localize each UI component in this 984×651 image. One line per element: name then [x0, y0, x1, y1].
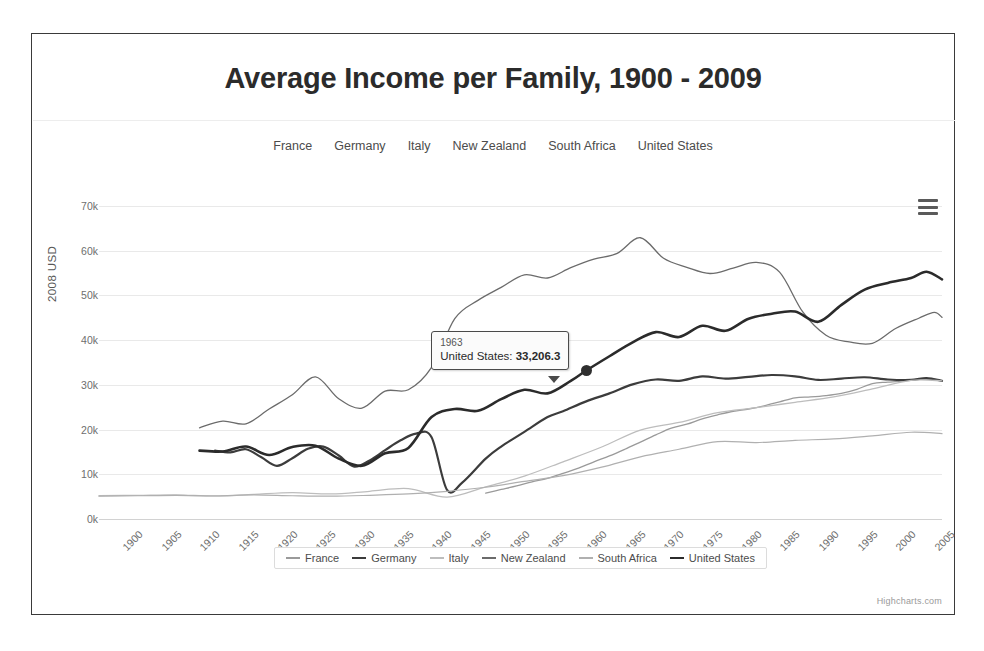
hamburger-bar-1	[918, 199, 938, 202]
x-tick-1910: 1910	[197, 528, 222, 553]
x-tick-2005: 2005	[932, 528, 957, 553]
y-tick-70k: 70k	[64, 200, 98, 212]
legend-swatch-icon	[579, 557, 593, 559]
legend-label: United States	[689, 552, 755, 564]
y-tick-0k: 0k	[64, 513, 98, 525]
hamburger-menu-icon[interactable]	[918, 199, 938, 215]
gridline-60k	[99, 251, 942, 252]
legend-swatch-icon	[430, 557, 444, 559]
y-tick-40k: 40k	[64, 334, 98, 346]
legend-label: Germany	[371, 552, 416, 564]
legend-item-south-africa[interactable]: South Africa	[579, 552, 657, 564]
legend-swatch-icon	[670, 557, 684, 559]
legend-item-germany[interactable]: Germany	[352, 552, 416, 564]
y-tick-20k: 20k	[64, 424, 98, 436]
y-tick-10k: 10k	[64, 468, 98, 480]
y-axis-tick-labels: 0k10k20k30k40k50k60k70k	[64, 34, 98, 616]
tooltip-series-label: United States:	[440, 350, 512, 362]
legend-item-france[interactable]: France	[286, 552, 339, 564]
tooltip-pointer	[548, 376, 560, 383]
bottom-legend[interactable]: FranceGermanyItalyNew ZealandSouth Afric…	[274, 547, 767, 569]
hamburger-bar-3	[918, 212, 938, 215]
legend-swatch-icon	[482, 557, 496, 559]
legend-label: Italy	[449, 552, 469, 564]
legend-label: South Africa	[598, 552, 657, 564]
x-tick-1905: 1905	[158, 528, 183, 553]
x-tick-1990: 1990	[816, 528, 841, 553]
gridline-70k	[99, 206, 942, 207]
gridline-10k	[99, 474, 942, 475]
legend-item-italy[interactable]: Italy	[430, 552, 469, 564]
legend-label: France	[305, 552, 339, 564]
tooltip-header: 1963	[440, 336, 560, 349]
x-tick-1985: 1985	[777, 528, 802, 553]
gridline-0k	[99, 519, 942, 520]
x-tick-1915: 1915	[236, 528, 261, 553]
y-tick-30k: 30k	[64, 379, 98, 391]
chart-frame: Average Income per Family, 1900 - 2009 F…	[31, 33, 955, 615]
legend-label: New Zealand	[501, 552, 566, 564]
credits-link[interactable]: Highcharts.com	[877, 596, 942, 606]
legend-swatch-icon	[352, 557, 366, 559]
hover-point-marker	[581, 365, 592, 376]
legend-item-new-zealand[interactable]: New Zealand	[482, 552, 566, 564]
y-axis-title: 2008 USD	[46, 246, 58, 302]
x-tick-2000: 2000	[893, 528, 918, 553]
x-tick-1900: 1900	[120, 528, 145, 553]
tooltip: 1963 United States: 33,206.3	[431, 331, 569, 370]
tooltip-value: 33,206.3	[516, 350, 561, 362]
y-tick-50k: 50k	[64, 289, 98, 301]
gridline-50k	[99, 295, 942, 296]
legend-swatch-icon	[286, 557, 300, 559]
x-tick-1995: 1995	[855, 528, 880, 553]
hamburger-bar-2	[918, 206, 938, 209]
tooltip-body: United States: 33,206.3	[440, 349, 560, 364]
plot-area: 2008 USD 0k10k20k30k40k50k60k70k 1900190…	[32, 34, 956, 616]
gridline-20k	[99, 430, 942, 431]
y-tick-60k: 60k	[64, 245, 98, 257]
gridline-30k	[99, 385, 942, 386]
legend-item-united-states[interactable]: United States	[670, 552, 755, 564]
